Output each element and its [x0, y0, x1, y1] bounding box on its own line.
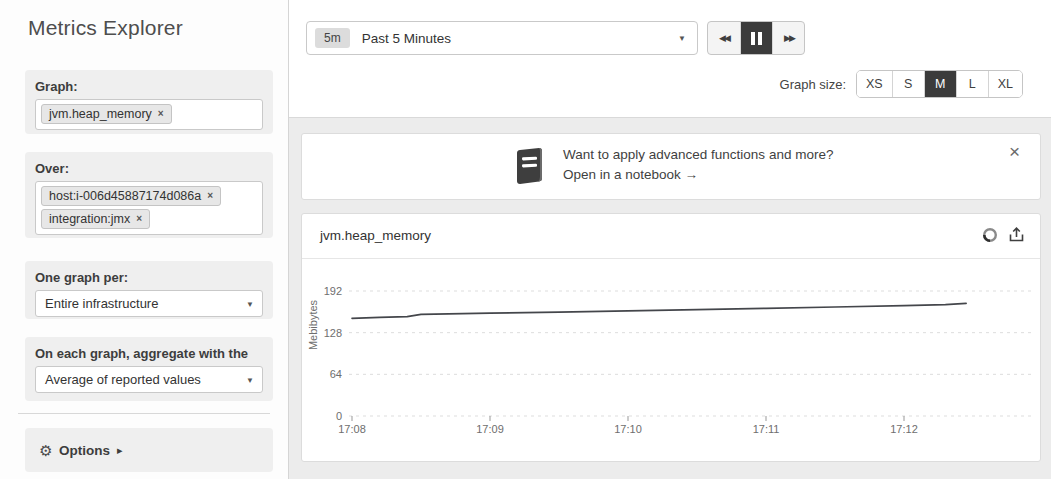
graph-metric-input[interactable]: jvm.heap_memory × [35, 99, 263, 130]
sidebar-divider [18, 413, 270, 414]
graph-label: Graph: [35, 79, 263, 94]
forward-button[interactable]: ▶▶ [772, 22, 804, 54]
toolbar: 5m Past 5 Minutes ▼ ◀◀ ▶▶ Graph size: XS… [289, 0, 1051, 118]
time-range-value: Past 5 Minutes [362, 31, 451, 46]
close-icon[interactable]: × [1009, 142, 1020, 161]
chevron-down-icon: ▼ [678, 34, 686, 43]
one-graph-per-select[interactable]: Entire infrastructure ▼ [35, 290, 263, 317]
graph-size-l-button[interactable]: L [956, 71, 988, 97]
notebook-banner-text: Want to apply advanced functions and mor… [563, 147, 833, 182]
graph-size-xs-button[interactable]: XS [857, 71, 892, 97]
remove-tag-icon[interactable]: × [207, 191, 213, 201]
graph-section: Graph: jvm.heap_memory × [25, 70, 273, 134]
graph-size-row: Graph size: XS S M L XL [780, 68, 1023, 100]
scope-tag-label: host:i-006d45887174d086a [49, 189, 201, 203]
metric-tag-label: jvm.heap_memory [49, 107, 152, 121]
export-icon[interactable] [1009, 227, 1024, 243]
graph-size-s-button[interactable]: S [892, 71, 924, 97]
scope-tag: integration:jmx × [41, 209, 150, 229]
over-label: Over: [35, 161, 263, 176]
rewind-icon: ◀◀ [719, 33, 729, 43]
page-title: Metrics Explorer [28, 16, 183, 40]
graph-header: jvm.heap_memory [302, 214, 1040, 259]
metric-graph-card: jvm.heap_memory Mebibytes 06412819217:08… [301, 213, 1041, 462]
chevron-down-icon: ▼ [246, 299, 254, 308]
chevron-right-icon: ▸ [117, 444, 123, 457]
aggregate-select[interactable]: Average of reported values ▼ [35, 366, 263, 393]
svg-text:17:12: 17:12 [890, 423, 918, 435]
pause-icon [751, 32, 762, 45]
svg-text:17:08: 17:08 [338, 423, 366, 435]
metrics-explorer-sidebar: Metrics Explorer Graph: jvm.heap_memory … [0, 0, 288, 479]
metrics-explorer-main: 5m Past 5 Minutes ▼ ◀◀ ▶▶ Graph size: XS… [288, 0, 1051, 479]
spinner-icon [982, 227, 998, 243]
notebook-icon [515, 148, 545, 186]
svg-text:64: 64 [330, 368, 342, 380]
one-graph-per-section: One graph per: Entire infrastructure ▼ [25, 261, 273, 319]
svg-text:17:09: 17:09 [476, 423, 504, 435]
remove-tag-icon[interactable]: × [158, 109, 164, 119]
scope-tag: host:i-006d45887174d086a × [41, 186, 221, 206]
gear-icon: ⚙ [39, 443, 52, 458]
svg-text:192: 192 [324, 285, 342, 297]
time-range-select[interactable]: 5m Past 5 Minutes ▼ [306, 21, 698, 55]
metric-line-chart[interactable]: 06412819217:0817:0917:1017:1117:12 [302, 260, 1042, 460]
graph-size-xl-button[interactable]: XL [988, 71, 1022, 97]
options-button[interactable]: ⚙ Options ▸ [25, 428, 273, 472]
graph-actions [982, 227, 1024, 243]
banner-message: Want to apply advanced functions and mor… [563, 147, 833, 162]
graph-size-group: XS S M L XL [856, 70, 1023, 98]
scope-tag-label: integration:jmx [49, 212, 130, 226]
rewind-button[interactable]: ◀◀ [708, 22, 740, 54]
pause-button[interactable] [740, 22, 772, 54]
open-notebook-link[interactable]: Open in a notebook → [563, 167, 833, 182]
fast-forward-icon: ▶▶ [784, 33, 794, 43]
aggregate-label: On each graph, aggregate with the [35, 346, 263, 361]
one-graph-per-label: One graph per: [35, 270, 263, 285]
playback-controls: ◀◀ ▶▶ [707, 21, 805, 55]
chevron-down-icon: ▼ [246, 375, 254, 384]
aggregate-value: Average of reported values [45, 372, 201, 387]
one-graph-per-value: Entire infrastructure [45, 296, 158, 311]
svg-text:128: 128 [324, 327, 342, 339]
graph-size-label: Graph size: [780, 77, 846, 92]
options-label: Options [59, 443, 110, 458]
aggregate-section: On each graph, aggregate with the Averag… [25, 337, 273, 401]
metric-tag: jvm.heap_memory × [41, 104, 172, 124]
svg-text:0: 0 [336, 410, 342, 422]
over-scope-input[interactable]: host:i-006d45887174d086a × integration:j… [35, 181, 263, 235]
remove-tag-icon[interactable]: × [136, 214, 142, 224]
time-range-badge: 5m [315, 28, 350, 48]
svg-text:17:11: 17:11 [753, 423, 780, 435]
graph-size-m-button[interactable]: M [924, 71, 956, 97]
svg-text:17:10: 17:10 [614, 423, 642, 435]
graph-title: jvm.heap_memory [320, 228, 431, 243]
notebook-banner: Want to apply advanced functions and mor… [301, 133, 1041, 200]
over-section: Over: host:i-006d45887174d086a × integra… [25, 152, 273, 238]
